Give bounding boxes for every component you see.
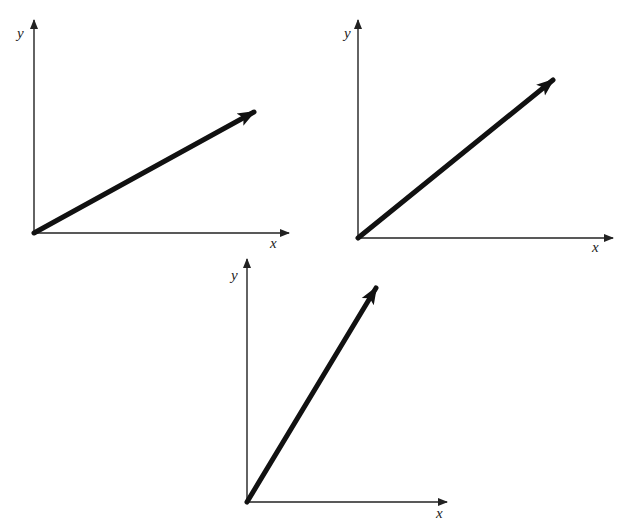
vector-arrow (34, 112, 254, 233)
vector-arrow (247, 288, 376, 502)
y-axis-label: y (15, 25, 24, 41)
y-axis-label: y (342, 25, 351, 41)
diagram-bottom-center: x y (229, 259, 447, 521)
x-axis-label: x (435, 505, 443, 521)
x-axis-label: x (591, 239, 599, 255)
y-axis-label: y (229, 267, 238, 283)
vector-diagrams-canvas: x y x y x y (0, 0, 628, 532)
diagram-top-right: x y (342, 20, 613, 255)
diagram-top-left: x y (15, 20, 289, 251)
vector-arrow (358, 80, 553, 238)
x-axis-label: x (269, 235, 277, 251)
